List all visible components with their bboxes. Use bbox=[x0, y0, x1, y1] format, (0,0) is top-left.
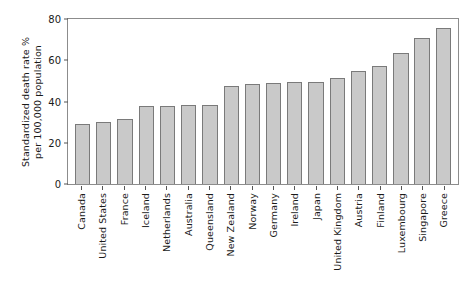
bar-cell bbox=[369, 19, 390, 184]
bar bbox=[117, 119, 132, 184]
x-axis-category: Ireland bbox=[284, 186, 305, 286]
x-axis-tick-label: Germany bbox=[269, 193, 279, 237]
x-axis-category: United Kingdom bbox=[327, 186, 348, 286]
x-axis-tick-label: United Kingdom bbox=[333, 193, 343, 271]
x-axis-tick-label: United States bbox=[98, 193, 108, 259]
bar-cell bbox=[327, 19, 348, 184]
x-axis-tick-mark bbox=[273, 186, 274, 190]
y-axis-title-line-1: Standardized death rate % bbox=[20, 37, 32, 167]
bar bbox=[202, 105, 217, 184]
x-axis-category: Luxembourg bbox=[391, 186, 412, 286]
bar-cell bbox=[390, 19, 411, 184]
x-axis-category: Queensland bbox=[199, 186, 220, 286]
x-axis-category: Netherlands bbox=[156, 186, 177, 286]
bar bbox=[181, 105, 196, 184]
bar bbox=[287, 82, 302, 184]
y-axis-tick: 20 bbox=[48, 137, 68, 148]
plot-area: 806040200 bbox=[67, 18, 459, 185]
x-axis-tick-label: Netherlands bbox=[162, 193, 172, 252]
bar-chart-figure: Standardized death rate % per 100,000 po… bbox=[0, 0, 473, 287]
y-axis-tick: 40 bbox=[48, 96, 68, 107]
x-axis-category: Finland bbox=[370, 186, 391, 286]
bar-series bbox=[68, 19, 458, 184]
x-axis-tick-label: Australia bbox=[184, 193, 194, 236]
y-axis-tick-label: 20 bbox=[48, 137, 64, 148]
bar-cell bbox=[412, 19, 433, 184]
x-axis-category: Iceland bbox=[135, 186, 156, 286]
bar bbox=[160, 106, 175, 184]
y-axis-title-line-2: per 100,000 population bbox=[32, 45, 44, 159]
x-axis-category: Greece bbox=[434, 186, 455, 286]
x-axis-category: Japan bbox=[306, 186, 327, 286]
x-axis-tick-mark bbox=[444, 186, 445, 190]
bar bbox=[75, 124, 90, 184]
y-axis-tick: 0 bbox=[55, 179, 68, 190]
x-axis-tick-mark bbox=[145, 186, 146, 190]
y-axis-tick-label: 0 bbox=[55, 179, 64, 190]
bar-cell bbox=[136, 19, 157, 184]
x-axis-tick-mark bbox=[358, 186, 359, 190]
bar bbox=[224, 86, 239, 184]
x-axis-category: New Zealand bbox=[220, 186, 241, 286]
bar bbox=[308, 82, 323, 184]
x-axis-tick-label: Queensland bbox=[205, 193, 215, 251]
x-axis-tick-label: Greece bbox=[439, 193, 449, 227]
bar-cell bbox=[157, 19, 178, 184]
x-axis-tick-label: New Zealand bbox=[226, 193, 236, 257]
x-axis-category: Australia bbox=[178, 186, 199, 286]
y-axis-tick-label: 60 bbox=[48, 55, 64, 66]
bar-cell bbox=[178, 19, 199, 184]
x-axis-tick-label: Canada bbox=[77, 193, 87, 230]
bar bbox=[330, 78, 345, 184]
bar bbox=[96, 122, 111, 184]
y-axis-tick-label: 80 bbox=[48, 14, 64, 25]
x-axis-tick-mark bbox=[422, 186, 423, 190]
bar bbox=[245, 84, 260, 184]
bar bbox=[351, 71, 366, 184]
x-axis-tick-label: Finland bbox=[376, 193, 386, 228]
bar-cell bbox=[93, 19, 114, 184]
x-axis-tick-mark bbox=[124, 186, 125, 190]
x-axis-tick-mark bbox=[294, 186, 295, 190]
bar bbox=[372, 66, 387, 184]
x-axis-tick-mark bbox=[401, 186, 402, 190]
x-axis-tick-label: Iceland bbox=[141, 193, 151, 228]
bar-cell bbox=[305, 19, 326, 184]
bar-cell bbox=[72, 19, 93, 184]
x-axis-category: Norway bbox=[242, 186, 263, 286]
bar-cell bbox=[263, 19, 284, 184]
x-axis-tick-label: Norway bbox=[248, 193, 258, 230]
bar bbox=[414, 38, 429, 184]
x-axis-tick-mark bbox=[380, 186, 381, 190]
bar-cell bbox=[221, 19, 242, 184]
x-axis-category: United States bbox=[92, 186, 113, 286]
x-axis-tick-label: Luxembourg bbox=[397, 193, 407, 253]
bar bbox=[436, 28, 451, 184]
x-axis-tick-mark bbox=[252, 186, 253, 190]
x-axis-tick-mark bbox=[337, 186, 338, 190]
x-axis-tick-mark bbox=[316, 186, 317, 190]
x-axis-category: Canada bbox=[71, 186, 92, 286]
x-axis-tick-label: Austria bbox=[354, 193, 364, 227]
x-axis-tick-mark bbox=[102, 186, 103, 190]
x-axis-category: Austria bbox=[348, 186, 369, 286]
bar-cell bbox=[114, 19, 135, 184]
bar-cell bbox=[348, 19, 369, 184]
x-axis-category: Germany bbox=[263, 186, 284, 286]
x-axis-tick-mark bbox=[81, 186, 82, 190]
x-axis-category: France bbox=[114, 186, 135, 286]
x-axis-tick-mark bbox=[230, 186, 231, 190]
bar-cell bbox=[433, 19, 454, 184]
bar-cell bbox=[199, 19, 220, 184]
y-axis-tick: 80 bbox=[48, 14, 68, 25]
bar bbox=[139, 106, 154, 184]
bar bbox=[393, 53, 408, 184]
y-axis-tick-label: 40 bbox=[48, 96, 64, 107]
x-axis-tick-label: France bbox=[120, 193, 130, 225]
x-axis-tick-mark bbox=[166, 186, 167, 190]
x-axis-category-labels: CanadaUnited StatesFranceIcelandNetherla… bbox=[67, 186, 459, 286]
bar-cell bbox=[284, 19, 305, 184]
bar-cell bbox=[242, 19, 263, 184]
x-axis-tick-mark bbox=[188, 186, 189, 190]
y-axis-title: Standardized death rate % per 100,000 po… bbox=[14, 18, 50, 186]
